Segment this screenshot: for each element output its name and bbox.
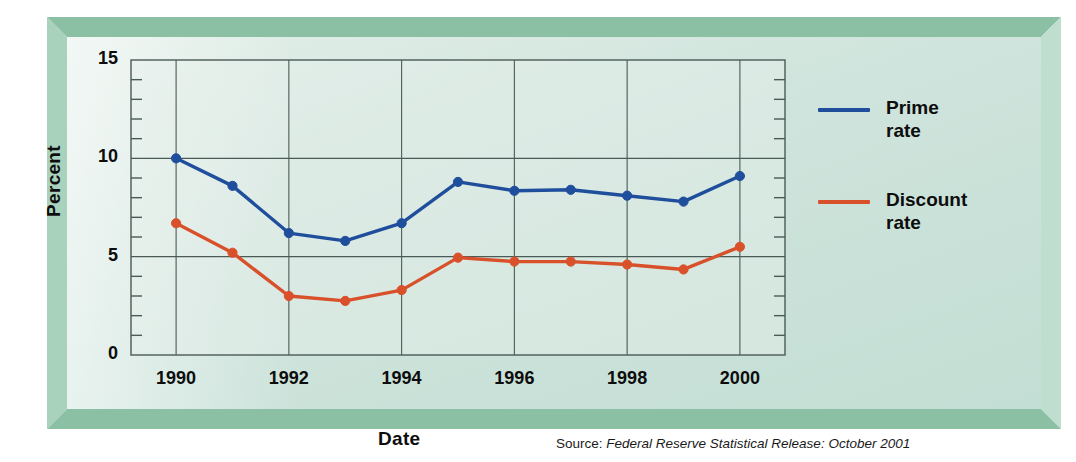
figure: 051015 199019921994199619982000 Percent … — [0, 0, 1076, 462]
y-tick-label: 15 — [98, 48, 118, 69]
x-tick-label: 1998 — [587, 368, 667, 389]
y-axis-title: Percent — [43, 121, 65, 241]
legend-label-discount-rate: Discount rate — [886, 188, 1008, 234]
x-tick-label: 1994 — [362, 368, 442, 389]
chart-legend: Prime rate Discount rate — [818, 96, 1008, 280]
source-title: Federal Reserve Statistical Release: Oct… — [606, 436, 910, 451]
x-axis-title: Date — [378, 428, 420, 450]
legend-label-prime-rate-line2: rate — [886, 119, 1008, 142]
legend-label-discount-rate-line1: Discount — [886, 188, 1008, 211]
y-tick-label: 5 — [108, 245, 118, 266]
frame-bevel-bottom — [47, 409, 1061, 429]
x-axis-tick-labels: 199019921994199619982000 — [0, 368, 1076, 398]
legend-label-prime-rate: Prime rate — [886, 96, 1008, 142]
source-prefix: Source: — [556, 436, 606, 451]
legend-label-discount-rate-line2: rate — [886, 211, 1008, 234]
y-tick-label: 0 — [108, 343, 118, 364]
legend-item-prime-rate[interactable]: Prime rate — [818, 96, 1008, 142]
legend-swatch-prime-rate — [818, 108, 870, 112]
x-tick-label: 2000 — [700, 368, 780, 389]
y-tick-label: 10 — [98, 146, 118, 167]
x-tick-label: 1992 — [249, 368, 329, 389]
x-tick-label: 1990 — [136, 368, 216, 389]
legend-label-prime-rate-line1: Prime — [886, 96, 1008, 119]
legend-swatch-discount-rate — [818, 200, 870, 204]
source-note: Source: Federal Reserve Statistical Rele… — [556, 436, 910, 451]
frame-bevel-top — [47, 17, 1061, 37]
x-tick-label: 1996 — [474, 368, 554, 389]
legend-item-discount-rate[interactable]: Discount rate — [818, 188, 1008, 234]
